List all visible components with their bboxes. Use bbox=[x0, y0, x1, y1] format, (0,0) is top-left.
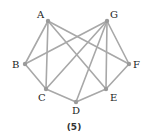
edge-A-C bbox=[46, 21, 48, 89]
graph-edges bbox=[25, 21, 129, 102]
edge-G-E bbox=[106, 21, 107, 89]
node-E bbox=[104, 87, 108, 91]
node-label-F: F bbox=[133, 59, 140, 70]
graph-diagram: AGBFCED bbox=[0, 0, 148, 140]
node-A bbox=[46, 19, 50, 23]
node-label-G: G bbox=[110, 9, 118, 20]
edge-B-C bbox=[25, 64, 46, 89]
node-D bbox=[74, 100, 78, 104]
node-B bbox=[23, 62, 27, 66]
node-F bbox=[127, 62, 131, 66]
figure-caption: (5) bbox=[0, 122, 148, 132]
node-G bbox=[105, 19, 109, 23]
node-label-E: E bbox=[110, 92, 117, 103]
node-label-D: D bbox=[72, 105, 80, 116]
edge-C-D bbox=[46, 89, 76, 102]
node-label-C: C bbox=[38, 92, 46, 103]
node-label-B: B bbox=[12, 59, 19, 70]
node-C bbox=[44, 87, 48, 91]
node-label-A: A bbox=[36, 9, 45, 20]
edge-E-F bbox=[106, 64, 129, 89]
